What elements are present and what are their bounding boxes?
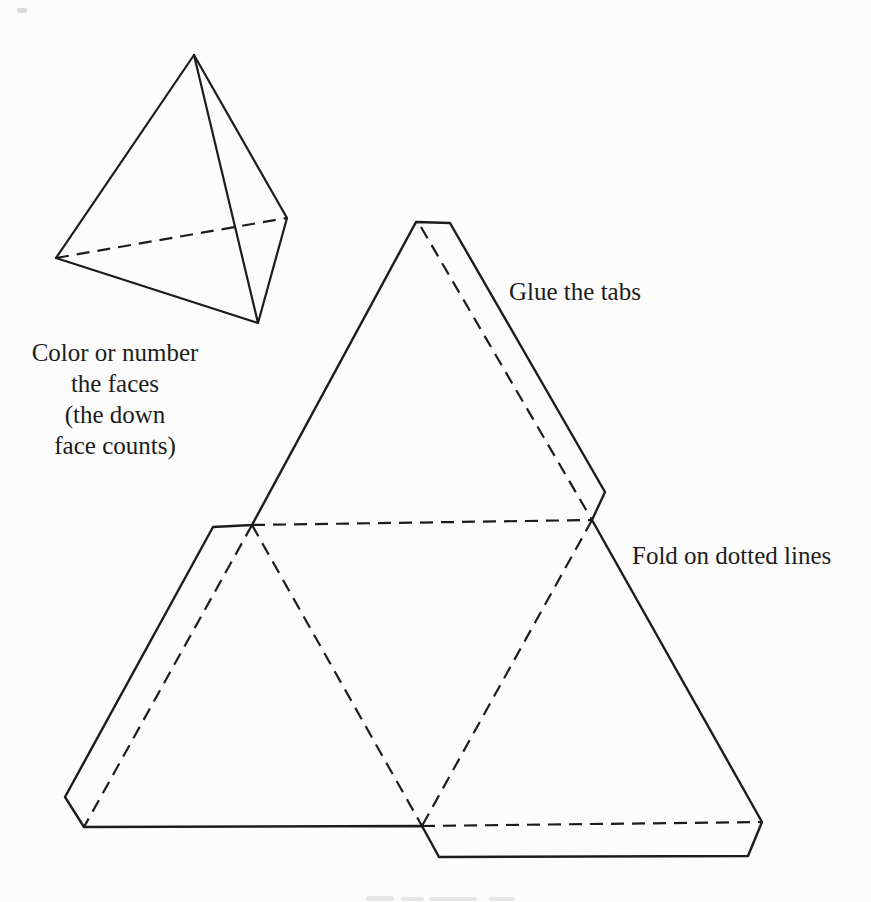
color-note-line: (the down <box>15 399 215 430</box>
fold-bottom-tab <box>422 822 762 826</box>
tetrahedron-drawing <box>56 55 287 323</box>
fold-center-left <box>252 525 422 826</box>
fold-mid-horizontal <box>252 520 592 525</box>
color-note-line: face counts) <box>15 430 215 461</box>
fold-left-tab <box>84 525 252 827</box>
tetrahedron-net-drawing <box>65 222 762 857</box>
color-note-line: Color or number <box>15 337 215 368</box>
scanned-page: Color or number the faces (the down face… <box>0 0 871 902</box>
color-note-label: Color or number the faces (the down face… <box>15 337 215 461</box>
glue-tabs-label: Glue the tabs <box>509 278 641 306</box>
fold-center-right <box>422 520 592 826</box>
fold-top-tab <box>421 227 592 520</box>
color-note-line: the faces <box>15 368 215 399</box>
fold-dotted-lines-label: Fold on dotted lines <box>632 542 831 570</box>
